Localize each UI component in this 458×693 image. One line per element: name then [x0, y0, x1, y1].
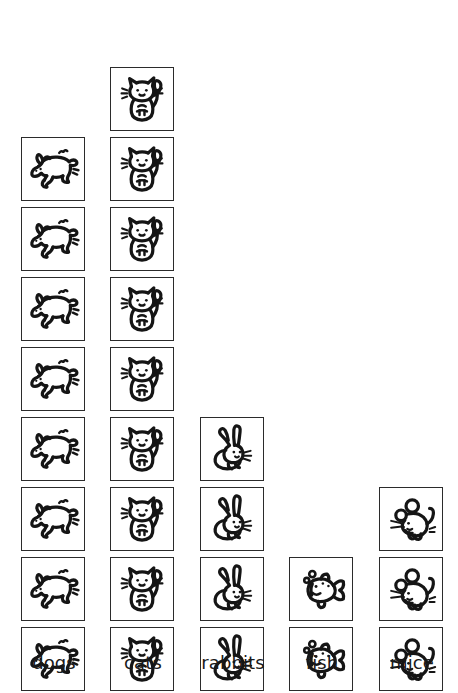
rabbit-icon	[201, 488, 263, 550]
pictogram-cell	[200, 487, 264, 551]
pictogram-column-dogs	[21, 50, 87, 693]
pictogram-column-cats	[110, 50, 176, 693]
cat-icon	[111, 278, 173, 340]
cat-icon	[111, 348, 173, 410]
pictogram-cell	[110, 277, 174, 341]
cat-icon	[111, 418, 173, 480]
dog-icon	[22, 348, 84, 410]
pictogram-cell	[21, 557, 85, 621]
pictogram-cell	[110, 137, 174, 201]
dog-icon	[22, 558, 84, 620]
dog-icon	[22, 278, 84, 340]
pictogram-column-fish	[289, 50, 355, 693]
cat-icon	[111, 138, 173, 200]
cat-icon	[111, 488, 173, 550]
pictogram-cell	[110, 487, 174, 551]
cat-icon	[111, 558, 173, 620]
cat-icon	[111, 68, 173, 130]
mouse-icon	[380, 558, 442, 620]
fish-icon	[290, 558, 352, 620]
pictogram-cell	[21, 277, 85, 341]
rabbit-icon	[201, 418, 263, 480]
category-label-mice: mice	[352, 653, 458, 673]
pictogram-cell	[379, 487, 443, 551]
dog-icon	[22, 138, 84, 200]
pictogram-cell	[110, 67, 174, 131]
pictogram-cell	[379, 557, 443, 621]
pictogram-cell	[110, 417, 174, 481]
pictogram-cell	[110, 557, 174, 621]
pictogram-cell	[21, 487, 85, 551]
rabbit-icon	[201, 558, 263, 620]
pictogram-cell	[21, 137, 85, 201]
pictogram-chart: dogscatsrabbitsfishmice	[0, 0, 458, 693]
pictogram-cell	[289, 557, 353, 621]
mouse-icon	[380, 488, 442, 550]
dog-icon	[22, 488, 84, 550]
pictogram-cell	[21, 207, 85, 271]
pictogram-cell	[110, 347, 174, 411]
dog-icon	[22, 418, 84, 480]
pictogram-cell	[21, 347, 85, 411]
pictogram-cell	[21, 417, 85, 481]
pictogram-column-rabbits	[200, 50, 266, 693]
cat-icon	[111, 208, 173, 270]
pictogram-cell	[110, 207, 174, 271]
pictogram-cell	[200, 557, 264, 621]
pictogram-cell	[200, 417, 264, 481]
dog-icon	[22, 208, 84, 270]
pictogram-column-mice	[379, 50, 445, 693]
